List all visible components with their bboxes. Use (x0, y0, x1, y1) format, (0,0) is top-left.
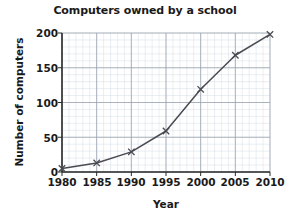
line-chart: Computers owned by a school Number of co… (0, 0, 290, 217)
plot-svg (0, 0, 290, 217)
